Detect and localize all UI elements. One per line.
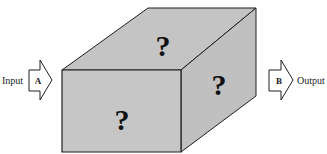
input-arrow-letter: A: [35, 76, 42, 86]
output-arrow-letter: B: [276, 76, 282, 86]
input-arrow: A: [29, 60, 52, 100]
black-box-diagram: A Input ? ? ? B Output: [0, 0, 327, 154]
front-face-question-mark: ?: [115, 103, 130, 136]
output-arrow: B: [269, 60, 293, 100]
input-label: Input: [2, 75, 23, 86]
output-label: Output: [297, 75, 325, 86]
side-face-question-mark: ?: [212, 68, 227, 101]
top-face-question-mark: ?: [156, 29, 171, 62]
